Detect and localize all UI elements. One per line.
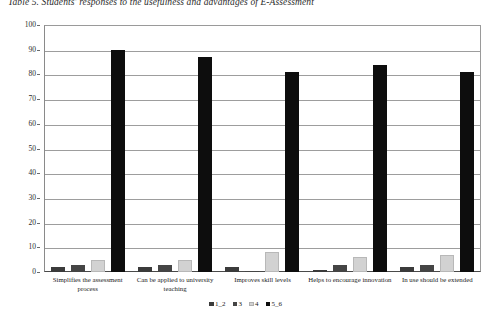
x-axis-category-label: Can be applied to university teaching [131, 276, 218, 293]
legend-item[interactable]: 1_2 [209, 300, 226, 308]
x-axis-category-label: Simplifies the assessment process [44, 276, 131, 293]
figure-caption: Table 5. Students' responses to the usef… [8, 0, 483, 10]
x-axis-category-label: Helps to encourage innovation [306, 276, 393, 285]
y-axis-tick-label: 40 [29, 169, 37, 177]
y-axis-tick-label: 70 [29, 95, 37, 103]
x-axis-category-label: In use should be extended [394, 276, 481, 285]
legend-swatch-icon [209, 302, 214, 307]
gridline [45, 51, 480, 52]
y-axis-tick-label: 100 [25, 21, 36, 29]
legend-swatch-icon [266, 302, 271, 307]
gridline [45, 224, 480, 225]
y-axis-tick-mark [37, 198, 40, 199]
y-axis-tick-mark [37, 124, 40, 125]
y-axis-tick-mark [37, 50, 40, 51]
y-axis-tick-label: 30 [29, 194, 37, 202]
legend-swatch-icon [249, 302, 254, 307]
chart-legend: 1_2345_6 [0, 300, 491, 308]
legend-item[interactable]: 5_6 [266, 300, 283, 308]
gridline [45, 125, 480, 126]
y-axis-tick-mark [37, 74, 40, 75]
gridline [45, 248, 480, 249]
legend-item[interactable]: 3 [233, 300, 243, 308]
y-axis-tick-label: 10 [29, 243, 37, 251]
gridline [45, 174, 480, 175]
y-axis-tick-label: 80 [29, 70, 37, 78]
x-axis-category-labels: Simplifies the assessment processCan be … [44, 276, 481, 300]
gridline [45, 150, 480, 151]
gridline [45, 100, 480, 101]
y-axis-tick-mark [37, 272, 40, 273]
x-axis-category-label: Improves skill levels [219, 276, 306, 285]
y-axis-tick-label: 50 [29, 145, 37, 153]
legend-label: 4 [255, 300, 259, 308]
y-axis-tick-label: 60 [29, 120, 37, 128]
plot-area [44, 25, 481, 272]
gridline [45, 199, 480, 200]
legend-swatch-icon [233, 302, 238, 307]
legend-label: 5_6 [272, 300, 283, 308]
legend-label: 1_2 [215, 300, 226, 308]
y-axis-tick-mark [37, 149, 40, 150]
y-axis-tick-mark [37, 25, 40, 26]
y-axis-tick-mark [37, 223, 40, 224]
legend-label: 3 [239, 300, 243, 308]
figure-container: Table 5. Students' responses to the usef… [0, 0, 491, 326]
y-axis-tick-mark [37, 173, 40, 174]
y-axis: 1009080706050403020100 [0, 25, 40, 272]
legend-item[interactable]: 4 [249, 300, 259, 308]
gridline [45, 75, 480, 76]
y-axis-tick-label: 0 [32, 268, 36, 276]
y-axis-tick-label: 20 [29, 219, 37, 227]
y-axis-tick-mark [37, 99, 40, 100]
y-axis-tick-mark [37, 247, 40, 248]
y-axis-tick-label: 90 [29, 46, 37, 54]
